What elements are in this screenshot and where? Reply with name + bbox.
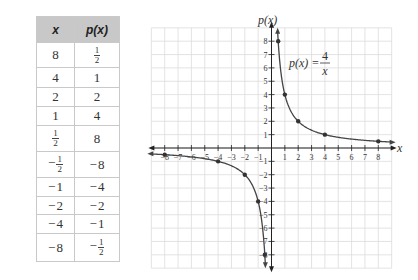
y-axis-arrow-down-icon xyxy=(269,266,274,272)
data-point xyxy=(296,119,300,123)
x-tick-label: 3 xyxy=(310,153,314,162)
y-tick-label: −3 xyxy=(259,184,268,193)
x-axis-arrow-icon xyxy=(391,146,397,151)
x-tick-label: 7 xyxy=(363,153,367,162)
curve-positive-branch xyxy=(278,32,392,142)
data-point xyxy=(256,199,260,203)
curve-arrow-down-icon xyxy=(263,262,268,268)
curve-arrow-left-icon xyxy=(147,151,153,156)
axes xyxy=(148,22,396,272)
y-tick-label: 6 xyxy=(264,64,268,73)
data-point xyxy=(263,253,267,257)
y-tick-label: 1 xyxy=(264,131,268,140)
x-tick-label: 5 xyxy=(336,153,340,162)
equation-denominator: x xyxy=(321,64,328,78)
x-tick-label: −3 xyxy=(227,153,236,162)
data-point xyxy=(283,92,287,96)
y-tick-label: 2 xyxy=(264,117,268,126)
y-tick-label: 3 xyxy=(264,104,268,113)
y-tick-label: −2 xyxy=(259,171,268,180)
y-tick-label: −1 xyxy=(259,157,268,166)
y-tick-label: 7 xyxy=(264,51,268,60)
x-tick-label: 8 xyxy=(376,153,380,162)
data-point xyxy=(216,159,220,163)
y-axis-label: p(x) xyxy=(257,13,277,27)
curve-negative-branch xyxy=(151,154,265,264)
data-point xyxy=(276,39,280,43)
x-tick-label: −7 xyxy=(174,153,183,162)
curve-arrow-right-icon xyxy=(390,140,396,145)
y-tick-label: 8 xyxy=(264,37,268,46)
curve-arrow-up-icon xyxy=(275,28,280,34)
x-tick-label: −2 xyxy=(241,153,250,162)
function-graph: −8−7−6−5−4−3−2−112345678−8−7−6−5−4−3−2−1… xyxy=(0,0,418,280)
data-point xyxy=(376,139,380,143)
y-tick-label: 4 xyxy=(264,91,268,100)
x-axis-label: x xyxy=(396,141,403,155)
equation-label: p(x) = 4 x xyxy=(288,49,330,78)
equation-numerator: 4 xyxy=(322,49,328,63)
data-point xyxy=(243,173,247,177)
y-tick-label: 5 xyxy=(264,77,268,86)
data-point xyxy=(323,132,327,136)
x-tick-label: −5 xyxy=(200,153,209,162)
equation-lhs: p(x) = xyxy=(288,56,319,70)
data-point xyxy=(163,152,167,156)
x-tick-label: 1 xyxy=(283,153,287,162)
x-tick-label: 4 xyxy=(323,153,327,162)
x-tick-label: 2 xyxy=(296,153,300,162)
x-tick-label: 6 xyxy=(350,153,354,162)
